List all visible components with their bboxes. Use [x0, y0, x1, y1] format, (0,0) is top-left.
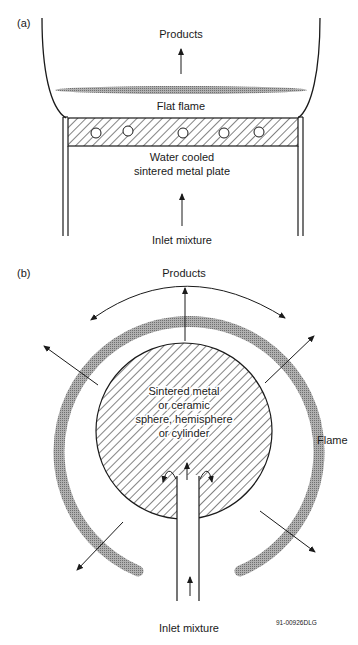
- panel-b-label: (b): [17, 267, 30, 279]
- cooling-hole-icon: [219, 128, 229, 138]
- cooling-hole-icon: [123, 126, 133, 136]
- inlet-label-a: Inlet mixture: [152, 234, 212, 246]
- chamber-wall-right: [298, 18, 320, 118]
- sphere-label-line3: sphere, hemisphere: [135, 413, 232, 425]
- chamber-wall-left: [42, 18, 66, 118]
- burner-diagram: (a) Products Flat flame Water coole: [0, 0, 358, 645]
- products-spread-arrow: [95, 286, 285, 318]
- panel-a-label: (a): [17, 17, 30, 29]
- products-label-b: Products: [162, 267, 206, 279]
- plate-label-line1: Water cooled: [150, 151, 214, 163]
- flame-label: Flame: [317, 434, 348, 446]
- panel-a: (a) Products Flat flame Water coole: [17, 17, 320, 246]
- plate-label-line2: sintered metal plate: [134, 165, 230, 177]
- sphere-label-line1: Sintered metal: [149, 385, 220, 397]
- figure-id: 91-00926DLG: [276, 619, 317, 626]
- products-label-a: Products: [159, 28, 203, 40]
- flat-flame: [55, 86, 307, 94]
- cooling-hole-icon: [91, 128, 101, 138]
- inlet-tube-fill: [177, 475, 199, 601]
- cooling-hole-icon: [254, 127, 264, 137]
- flat-flame-label: Flat flame: [157, 100, 205, 112]
- sphere-label-line2: or ceramic: [158, 399, 210, 411]
- cooling-hole-icon: [178, 128, 188, 138]
- sphere-label-line4: or cylinder: [159, 427, 210, 439]
- panel-b: (b) Products Flame Sintered metal or cer…: [17, 267, 348, 634]
- inlet-label-b: Inlet mixture: [159, 622, 219, 634]
